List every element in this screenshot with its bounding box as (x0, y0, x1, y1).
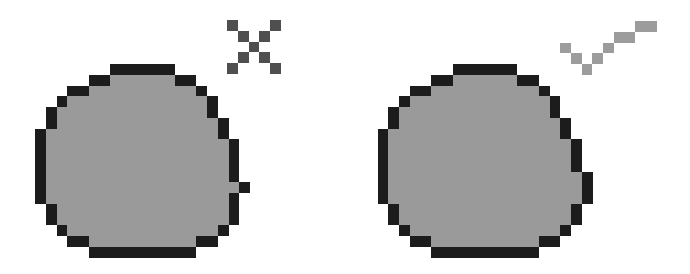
shape-outline-pixel (110, 64, 175, 75)
shape-outline-pixel (229, 172, 239, 182)
cross-icon-pixel (270, 20, 281, 31)
shape-fill-pixel (46, 182, 239, 193)
shape-outline-pixel (378, 161, 388, 172)
shape-fill-pixel (388, 172, 582, 182)
shape-outline-pixel (560, 129, 571, 139)
shape-outline-pixel (35, 161, 46, 172)
shape-fill-pixel (410, 225, 560, 236)
shape-outline-pixel (431, 75, 453, 86)
shape-outline-pixel (46, 118, 57, 129)
shape-fill-pixel (388, 193, 582, 204)
shape-fill-pixel (388, 150, 571, 161)
shape-outline-pixel (229, 150, 239, 161)
shape-outline-pixel (560, 225, 571, 236)
shape-fill-pixel (110, 75, 175, 86)
cross-icon-pixel (259, 31, 270, 42)
shape-outline-pixel (35, 182, 46, 193)
shape-outline-pixel (378, 193, 388, 204)
shape-outline-pixel (399, 96, 410, 107)
shape-outline-pixel (229, 139, 239, 150)
shape-outline-pixel (46, 204, 57, 215)
checkmark-icon-pixel (560, 43, 571, 53)
shape-outline-pixel (378, 150, 388, 161)
shape-outline-pixel (196, 86, 207, 96)
shape-outline-pixel (89, 75, 110, 86)
shape-outline-pixel (57, 225, 67, 236)
shape-fill-pixel (46, 193, 229, 204)
shape-fill-pixel (67, 96, 207, 107)
mark-label: Right (0, 0, 1, 1)
cross-icon-pixel (227, 20, 238, 31)
shape-outline-pixel (229, 215, 239, 225)
shape-fill-pixel (89, 86, 196, 96)
shape-outline-pixel (378, 172, 388, 182)
shape-fill-pixel (453, 75, 517, 86)
cross-icon-pixel (270, 63, 281, 74)
shape-outline-pixel (582, 182, 593, 193)
shape-fill-pixel (388, 161, 571, 172)
shape-outline-pixel (388, 118, 399, 129)
shape-fill-pixel (57, 118, 218, 129)
shape-fill-pixel (89, 236, 196, 247)
shape-outline-pixel (229, 193, 239, 204)
shape-outline-pixel (571, 204, 582, 215)
shape-outline-pixel (431, 247, 539, 258)
checkmark-icon-pixel (582, 64, 592, 75)
shape-outline-pixel (175, 75, 196, 86)
shape-fill-pixel (399, 118, 560, 129)
shape-outline-pixel (218, 225, 229, 236)
cross-icon-pixel (238, 52, 249, 63)
shape-outline-pixel (517, 75, 539, 86)
shape-outline-pixel (35, 139, 46, 150)
checkmark-icon-pixel (646, 21, 657, 32)
shape-outline-pixel (399, 225, 410, 236)
mark-label: Wrong (0, 0, 1, 1)
shape-fill-pixel (57, 215, 229, 225)
shape-fill-pixel (57, 107, 207, 118)
shape-outline-pixel (239, 182, 250, 193)
shape-fill-pixel (399, 215, 571, 225)
shape-outline-pixel (218, 129, 229, 139)
shape-outline-pixel (196, 236, 218, 247)
shape-outline-pixel (35, 172, 46, 182)
shape-outline-pixel (67, 86, 89, 96)
panel-label: Incorrect shape (0, 0, 1, 1)
shape-outline-pixel (539, 86, 550, 96)
checkmark-icon-pixel (625, 32, 635, 43)
shape-outline-pixel (550, 96, 560, 107)
shape-outline-pixel (378, 182, 388, 193)
shape-outline-pixel (388, 215, 399, 225)
cross-icon-pixel (227, 63, 238, 74)
shape-outline-pixel (453, 64, 517, 75)
shape-outline-pixel (35, 129, 46, 139)
shape-outline-pixel (207, 107, 218, 118)
shape-outline-pixel (35, 193, 46, 204)
shape-fill-pixel (67, 225, 218, 236)
checkmark-icon-pixel (592, 53, 603, 64)
cross-icon-pixel (259, 52, 270, 63)
shape-outline-pixel (67, 236, 89, 247)
shape-fill-pixel (388, 182, 582, 193)
shape-outline-pixel (229, 161, 239, 172)
shape-fill-pixel (46, 172, 229, 182)
shape-fill-pixel (46, 150, 229, 161)
shape-fill-pixel (399, 107, 550, 118)
shape-fill-pixel (410, 96, 550, 107)
shape-outline-pixel (378, 139, 388, 150)
shape-fill-pixel (46, 161, 229, 172)
cross-icon-pixel (249, 42, 259, 52)
shape-outline-pixel (571, 215, 582, 225)
checkmark-icon-pixel (614, 32, 625, 43)
shape-outline-pixel (571, 150, 582, 161)
checkmark-icon-pixel (571, 53, 582, 64)
shape-fill-pixel (388, 129, 560, 139)
cross-icon-pixel (238, 31, 249, 42)
shape-fill-pixel (431, 86, 539, 96)
shape-outline-pixel (550, 107, 560, 118)
checkmark-icon-pixel (635, 21, 646, 32)
shape-outline-pixel (46, 215, 57, 225)
shape-outline-pixel (410, 86, 431, 96)
shape-fill-pixel (57, 204, 229, 215)
shape-outline-pixel (388, 107, 399, 118)
panel-label: Correct shape (0, 0, 1, 1)
